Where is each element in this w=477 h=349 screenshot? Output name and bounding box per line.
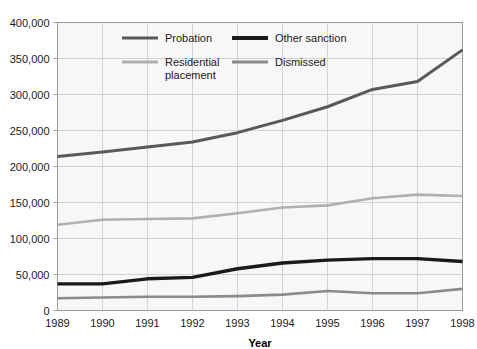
x-axis-tick-label: 1992 <box>180 317 204 329</box>
y-axis-tick-label: 150,000 <box>10 197 50 209</box>
x-axis-tick-label: 1998 <box>450 317 474 329</box>
y-axis-tick-label: 300,000 <box>10 89 50 101</box>
x-axis-tick-label: 1997 <box>405 317 429 329</box>
chart-canvas: 050,000100,000150,000200,000250,000300,0… <box>0 0 477 349</box>
y-axis-tick-label: 100,000 <box>10 233 50 245</box>
x-axis-tick-label: 1989 <box>45 317 69 329</box>
y-axis-tick-label: 350,000 <box>10 53 50 65</box>
y-axis-tick-label: 50,000 <box>16 269 50 281</box>
x-axis-tick-label: 1990 <box>90 317 114 329</box>
x-axis-tick-label: 1994 <box>270 317 294 329</box>
x-axis-tick-label: 1996 <box>360 317 384 329</box>
legend-label: Residential <box>165 56 219 68</box>
y-axis-tick-label: 400,000 <box>10 17 50 29</box>
legend-label: Other sanction <box>275 32 347 44</box>
x-axis-tick-label: 1995 <box>315 317 339 329</box>
legend-label-line2: placement <box>165 69 216 81</box>
y-axis-tick-label: 0 <box>43 305 49 317</box>
x-axis-tick-label: 1993 <box>225 317 249 329</box>
y-axis-tick-label: 200,000 <box>10 161 50 173</box>
legend-label: Dismissed <box>275 56 326 68</box>
legend-label: Probation <box>165 32 212 44</box>
x-axis-tick-label: 1991 <box>135 317 159 329</box>
line-chart: 050,000100,000150,000200,000250,000300,0… <box>0 0 477 349</box>
x-axis-title: Year <box>248 337 272 349</box>
y-axis-tick-label: 250,000 <box>10 125 50 137</box>
